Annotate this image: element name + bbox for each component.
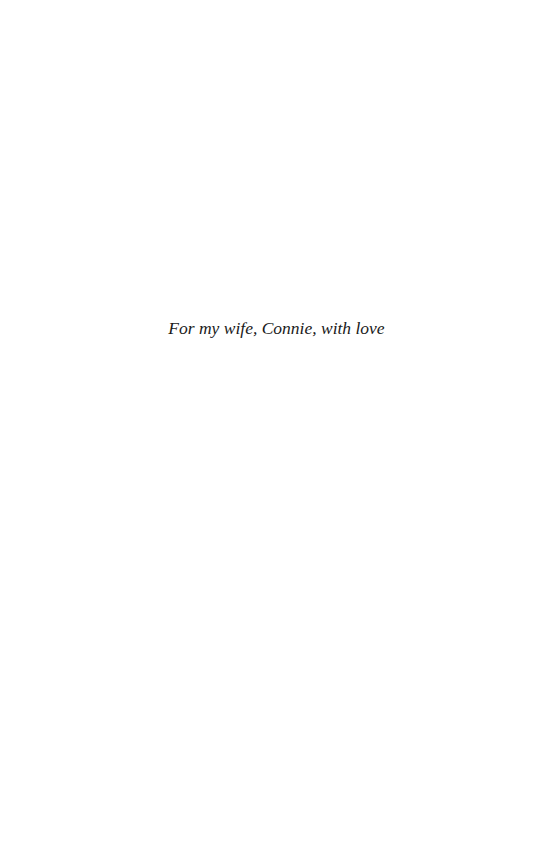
dedication-text: For my wife, Connie, with love (0, 317, 550, 339)
book-page: For my wife, Connie, with love (0, 0, 550, 859)
